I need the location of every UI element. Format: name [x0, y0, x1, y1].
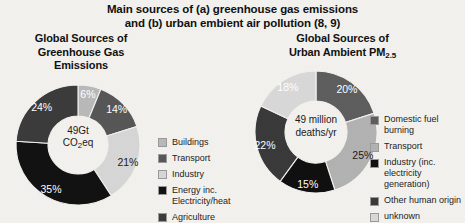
- legend-swatch-icon: [158, 138, 167, 147]
- legend-item[interactable]: Agriculture: [158, 212, 232, 223]
- pie-slice-value-label: 20%: [336, 83, 357, 95]
- pie-slice: [16, 141, 111, 205]
- legend-swatch-icon: [370, 143, 379, 152]
- pie-slice-value-label: 35%: [40, 182, 61, 194]
- legend-item-label: Industry (inc. electricity generation): [384, 157, 465, 190]
- panel-title-line-1: Global Sources of: [250, 32, 435, 46]
- legend-swatch-icon: [158, 154, 167, 163]
- legend-item[interactable]: Transport: [158, 153, 232, 164]
- legend-item[interactable]: Industry (inc. electricity generation): [370, 157, 465, 190]
- legend-item[interactable]: Other human origin: [370, 195, 465, 206]
- legend-item-label: Domestic fuel burning: [384, 114, 465, 136]
- pie-slice-value-label: 18%: [277, 81, 298, 93]
- legend-item-label: Buildings: [172, 137, 232, 148]
- legend-item-label: Other human origin: [384, 195, 465, 206]
- legend-item-label: Industry: [172, 169, 232, 180]
- legend-item-label: Transport: [172, 153, 232, 164]
- panel-title-line-3: Emissions: [6, 59, 156, 73]
- panel-title-line-1: Global Sources of: [6, 32, 156, 46]
- pie-slice-value-label: 24%: [31, 101, 52, 113]
- legend-urban-pm25: Domestic fuel burningTransportIndustry (…: [370, 114, 465, 222]
- pie-slice-value-label: 14%: [106, 103, 127, 115]
- donut-chart-greenhouse-gas: 6%14%21%35%24% 49Gt CO2eq: [12, 81, 144, 209]
- pie-slice-value-label: 6%: [80, 88, 95, 100]
- pie-slice-value-label: 21%: [117, 155, 138, 167]
- legend-swatch-icon: [370, 213, 379, 222]
- legend-item-label: Agriculture: [172, 212, 232, 223]
- figure-title-line-1: Main sources of (a) greenhouse gas emiss…: [0, 2, 465, 16]
- panel-title-line-2: Urban Ambient PM2.5: [250, 46, 435, 63]
- panel-urban-pm25: Global Sources of Urban Ambient PM2.5 20…: [232, 32, 465, 222]
- pie-slice: [316, 71, 374, 122]
- pie-slice-value-label: 22%: [255, 139, 276, 151]
- legend-swatch-icon: [370, 116, 379, 125]
- legend-item-label: Transport: [384, 141, 465, 152]
- panel-greenhouse-gas: Global Sources of Greenhouse Gas Emissio…: [0, 32, 232, 222]
- legend-greenhouse-gas: BuildingsTransportIndustryEnergy inc. El…: [158, 137, 232, 223]
- figure-container: Main sources of (a) greenhouse gas emiss…: [0, 0, 465, 222]
- legend-item-label: Energy inc. Electricity/heat: [172, 185, 232, 207]
- legend-swatch-icon: [370, 197, 379, 206]
- figure-title-line-2: and (b) urban embient air pollution (8, …: [0, 16, 465, 30]
- donut-chart-urban-pm25: 20%25%15%22%18% 49 million deaths/yr: [252, 68, 380, 196]
- panel-title-urban-pm25: Global Sources of Urban Ambient PM2.5: [250, 32, 435, 62]
- legend-item[interactable]: Industry: [158, 169, 232, 180]
- legend-item[interactable]: Energy inc. Electricity/heat: [158, 185, 232, 207]
- donut-svg-urban-pm25: 20%25%15%22%18%: [252, 68, 380, 196]
- legend-swatch-icon: [158, 186, 167, 195]
- legend-swatch-icon: [370, 159, 379, 168]
- legend-item[interactable]: Buildings: [158, 137, 232, 148]
- figure-title: Main sources of (a) greenhouse gas emiss…: [0, 2, 465, 30]
- legend-item[interactable]: Domestic fuel burning: [370, 114, 465, 136]
- legend-item[interactable]: unknown: [370, 211, 465, 222]
- pie-slice: [16, 85, 78, 143]
- panel-title-greenhouse-gas: Global Sources of Greenhouse Gas Emissio…: [6, 32, 156, 73]
- legend-item-label: unknown: [384, 211, 465, 222]
- donut-svg-greenhouse-gas: 6%14%21%35%24%: [12, 81, 144, 209]
- legend-swatch-icon: [158, 213, 167, 222]
- legend-swatch-icon: [158, 170, 167, 179]
- legend-item[interactable]: Transport: [370, 141, 465, 152]
- pie-slice-value-label: 15%: [297, 178, 318, 190]
- panel-title-line-2: Greenhouse Gas: [6, 46, 156, 60]
